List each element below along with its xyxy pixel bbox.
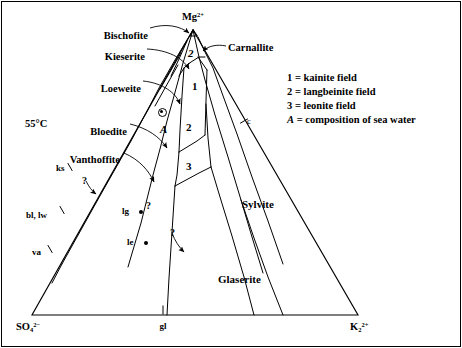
question-leader-lines <box>86 181 184 252</box>
legend-entry-0: 1 = kainite field <box>287 72 416 83</box>
legend-text-A: = composition of sea water <box>294 114 416 125</box>
uncertain-boundary-marker-q1: ? <box>82 176 87 186</box>
leader-line-5 <box>203 45 226 51</box>
leader-lines <box>124 26 226 182</box>
phase-boundary-10 <box>179 135 205 152</box>
data-point-le <box>144 241 148 245</box>
phase-diagram-figure: Mg2+ SO42− K22+ gl 55°C BischofiteKieser… <box>0 0 462 348</box>
legend: 1 = kainite field2 = langbeinite field3 … <box>287 72 416 128</box>
legend-entry-3: A = composition of sea water <box>287 114 416 125</box>
base-tick-label-gl: gl <box>159 322 166 331</box>
phase-boundary-1 <box>128 30 193 267</box>
edge-tick-2 <box>48 245 53 253</box>
temperature-label: 55°C <box>25 119 47 130</box>
legend-text-1: = kainite field <box>292 72 357 83</box>
phase-boundary-6 <box>155 65 178 106</box>
uncertain-boundary-marker-q2: ? <box>146 201 151 211</box>
data-point-label-le: le <box>127 238 134 247</box>
phase-boundary-18 <box>52 264 62 283</box>
phase-boundary-14 <box>198 57 207 70</box>
mineral-label-bloedite: Bloedite <box>90 127 127 138</box>
phase-boundary-15 <box>206 104 211 167</box>
mineral-label-vanthoffite: Vanthoffite <box>70 155 120 166</box>
mineral-label-carnallite: Carnallite <box>228 43 274 54</box>
legend-text-3: = leonite field <box>292 100 355 111</box>
phase-boundary-2 <box>193 30 263 273</box>
edge-tick-marks <box>48 119 248 315</box>
phase-boundary-19 <box>241 200 283 315</box>
phase-boundary-16 <box>167 186 175 315</box>
legend-entry-1: 2 = langbeinite field <box>287 86 416 97</box>
legend-key-A: A <box>287 114 294 125</box>
mineral-label-kieserite: Kieserite <box>105 52 145 63</box>
apex-label-mg: Mg2+ <box>182 12 204 23</box>
edge-label-va: va <box>32 248 41 257</box>
seawater-marker-label: A <box>160 124 167 135</box>
field-number-field-3: 3 <box>186 161 192 172</box>
data-point-lg <box>139 210 143 214</box>
phase-boundary-12 <box>175 167 211 186</box>
data-point-label-lg: lg <box>122 207 129 216</box>
leader-line-0 <box>150 26 189 33</box>
phase-boundary-17 <box>211 167 254 315</box>
field-number-field-2: 2 <box>186 122 192 133</box>
legend-text-2: = langbeinite field <box>292 86 375 97</box>
field-number-field-z: 2 <box>188 48 194 59</box>
corner-label-sulfate: SO42− <box>16 322 40 333</box>
seawater-composition-marker <box>158 108 167 117</box>
uncertain-boundary-marker-q3: ? <box>170 228 175 238</box>
leader-line-4 <box>124 153 154 182</box>
edge-tick-1 <box>60 206 65 214</box>
phase-boundary-3 <box>198 37 283 264</box>
mineral-label-bischofite: Bischofite <box>104 31 148 42</box>
edge-label-bl-lw: bl, lw <box>26 211 47 220</box>
region-label-glaserite: Glaserite <box>218 274 261 285</box>
phase-boundary-11 <box>175 152 179 186</box>
edge-label-c-tick: c <box>247 117 251 126</box>
region-label-sylvite: Sylvite <box>242 199 274 210</box>
field-number-field-1: 1 <box>192 81 198 92</box>
legend-entry-2: 3 = leonite field <box>287 100 416 111</box>
phase-boundary-9 <box>179 68 184 152</box>
corner-label-potassium: K22+ <box>350 322 368 333</box>
mineral-label-loeweite: Loeweite <box>101 84 141 95</box>
question-leader-0 <box>86 181 96 194</box>
edge-label-ks: ks <box>56 164 65 173</box>
